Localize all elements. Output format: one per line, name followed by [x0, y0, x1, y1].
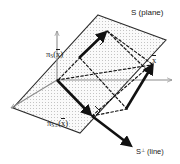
vector-x-label: x [152, 56, 156, 65]
projection-diagram: S (plane) S⊥ (line) πS(x) πS⊥(x) x [0, 0, 180, 164]
x-bar-arg: x [56, 50, 60, 59]
line-Sperp-segment [92, 116, 130, 145]
diagram-canvas [0, 0, 180, 164]
paren-close: ) [65, 118, 68, 128]
paren-close: ) [60, 49, 63, 59]
x-bar-arg: x [61, 119, 65, 128]
orthogonal-complement-line-label: S⊥ (line) [136, 148, 164, 156]
subspace-plane-label: S (plane) [131, 9, 163, 17]
subspace-plane-qualifier: (plane) [139, 8, 164, 17]
projection-onto-S-label: πS(x) [46, 50, 63, 59]
subspace-plane [13, 15, 166, 133]
sperp-qualifier: (line) [147, 147, 164, 156]
projection-onto-Sperp-label: πS⊥(x) [47, 119, 68, 128]
x-bar-symbol: x [152, 56, 156, 65]
